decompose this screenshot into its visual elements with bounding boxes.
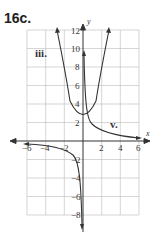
- x-axis-label: x: [145, 129, 150, 138]
- svg-text:4: 4: [75, 99, 80, 109]
- svg-text:2: 2: [75, 118, 80, 128]
- svg-text:6: 6: [136, 143, 141, 153]
- graph: −6 −4 −2 2 4 6 12 10 8 6 4 2 −2 −4 −6 −8…: [0, 0, 156, 235]
- svg-text:−4: −4: [40, 143, 50, 153]
- svg-text:2: 2: [99, 143, 104, 153]
- svg-text:−6: −6: [71, 192, 81, 202]
- svg-text:8: 8: [75, 62, 80, 72]
- svg-text:4: 4: [118, 143, 123, 153]
- y-axis-label: y: [86, 17, 91, 26]
- label-iii: iii.: [35, 47, 47, 59]
- svg-text:−8: −8: [71, 210, 81, 220]
- svg-text:12: 12: [71, 26, 80, 36]
- svg-text:10: 10: [71, 44, 81, 54]
- svg-text:6: 6: [75, 81, 80, 91]
- label-v: v.: [110, 118, 118, 130]
